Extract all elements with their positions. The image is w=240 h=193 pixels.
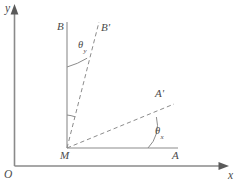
origin-label: O: [4, 169, 12, 181]
theta-x-subscript: x: [160, 133, 163, 141]
figure-canvas: y x O M A A' B B' θy θx: [0, 0, 240, 193]
point-label-b: B: [57, 21, 64, 32]
angle-label-theta-y: θy: [78, 40, 86, 53]
angle-arc-theta-y-outer: [67, 58, 87, 67]
point-label-m: M: [60, 150, 69, 161]
x-axis-label: x: [228, 170, 233, 182]
theta-y-subscript: y: [83, 47, 86, 55]
y-axis-arrowhead: [11, 4, 19, 15]
diagram-svg: [0, 0, 240, 193]
point-label-a: A: [172, 150, 179, 161]
angle-arc-theta-y: [67, 115, 75, 117]
angle-label-theta-x: θx: [155, 126, 163, 139]
y-axis-label: y: [5, 3, 10, 15]
point-label-a-prime: A': [155, 88, 164, 99]
point-label-b-prime: B': [101, 22, 110, 33]
